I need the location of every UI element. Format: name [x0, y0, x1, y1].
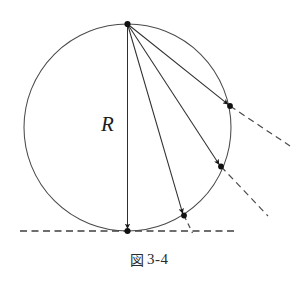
- figure-caption: 図3-4: [0, 249, 298, 269]
- nadir-point: [125, 228, 131, 234]
- apex-point: [124, 21, 130, 27]
- chord-upper-endpoint: [227, 103, 233, 109]
- chord-middle-endpoint: [218, 164, 224, 170]
- chord-middle: [128, 24, 220, 164]
- chord-lower-endpoint: [181, 213, 187, 219]
- radius-label: R: [101, 114, 114, 135]
- figure-container: R 図3-4: [0, 0, 298, 285]
- chord-upper: [128, 24, 228, 104]
- caption-number: 3-4: [147, 251, 169, 268]
- tangent-upper-dashed: [230, 106, 290, 146]
- tangent-middle-dashed: [221, 167, 268, 217]
- geometry-diagram: [0, 0, 298, 285]
- caption-kanji-zu: 図: [130, 249, 148, 269]
- chord-lower: [128, 24, 183, 213]
